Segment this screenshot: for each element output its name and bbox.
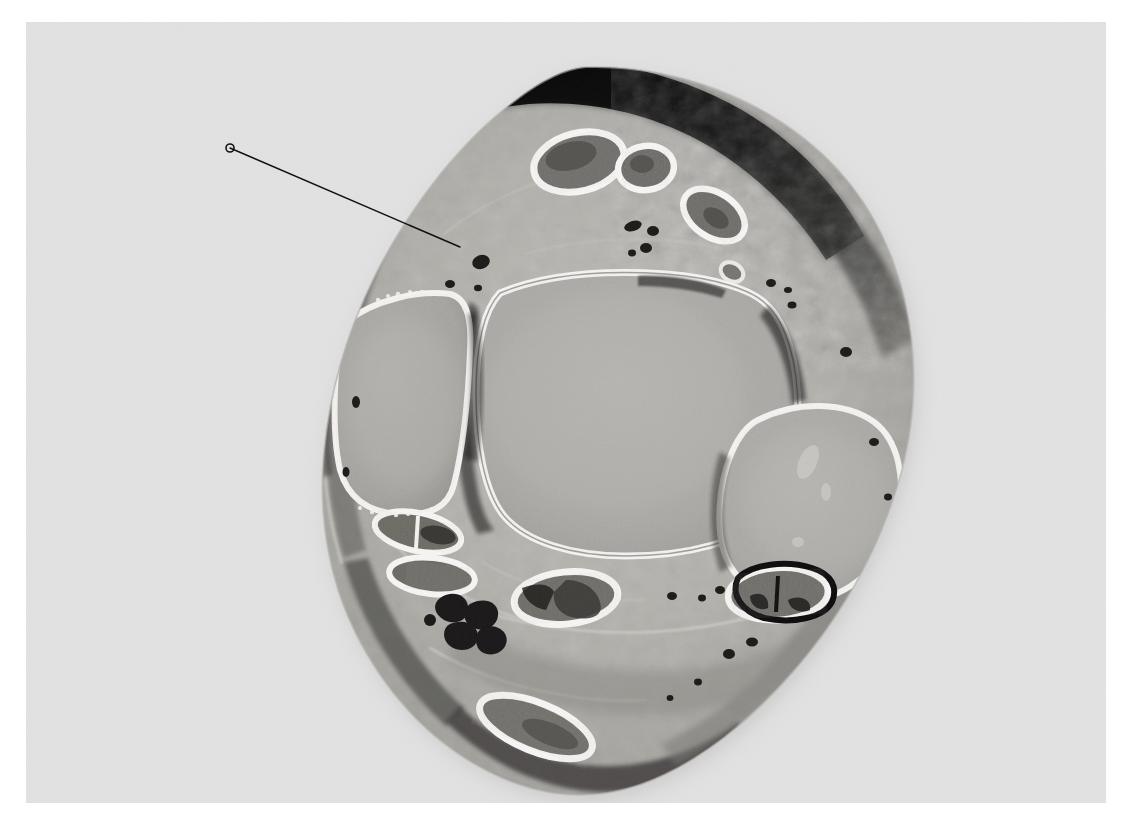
specimen-image bbox=[26, 22, 1106, 803]
figure-panel bbox=[26, 22, 1106, 803]
figure-plate: Transverse anatomical cross-section of a… bbox=[0, 0, 1130, 826]
